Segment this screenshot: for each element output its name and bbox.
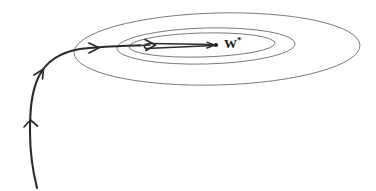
contour-diagram-svg xyxy=(0,0,376,191)
outer-contour-ellipse xyxy=(73,9,361,88)
valley-zigzag-lower-leg xyxy=(146,46,214,49)
contour-group xyxy=(73,9,361,88)
optimum-point-dot xyxy=(214,43,218,47)
optimum-label: W* xyxy=(224,36,242,50)
valley-zigzag-upper-leg xyxy=(150,44,213,45)
optimum-label-text: W xyxy=(224,36,237,51)
optimum-label-superscript: * xyxy=(237,35,242,45)
figure-canvas: W* xyxy=(0,0,376,191)
trajectory-group xyxy=(30,43,214,188)
optimum-marker-group xyxy=(214,43,218,47)
